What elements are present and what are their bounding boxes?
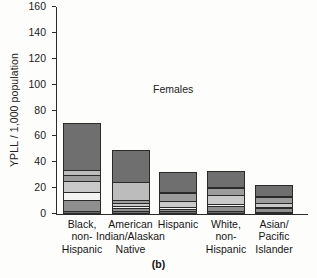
bar-1-segment-1 [64,211,100,213]
y-tick-label-60: 60 [34,130,46,141]
bar-4-segment-1 [208,211,244,213]
series-annotation-females: Females [153,83,193,95]
y-tick-label-80: 80 [34,104,46,115]
bar-1-segment-4 [64,181,100,192]
bar-1-segment-7 [64,124,100,170]
x-label-line: Pacific [228,230,317,242]
plot-area: 020406080100120140160 [56,7,306,214]
bar-4-segment-5 [208,188,244,195]
y-tick-label-40: 40 [34,156,46,167]
y-tick-140: 140 [52,32,56,33]
y-tick-80: 80 [52,110,56,111]
y-tick-label-20: 20 [34,182,46,193]
bar-2 [112,150,150,214]
y-axis-title: YPLL / 1,000 population [8,22,20,198]
y-tick-0: 0 [52,213,56,214]
bar-2-segment-1 [113,211,149,213]
bar-5-segment-1 [256,212,292,214]
y-tick-100: 100 [52,84,56,85]
y-tick-120: 120 [52,58,56,59]
y-tick-60: 60 [52,135,56,136]
bar-3-segment-7 [160,173,196,192]
bar-5 [255,185,293,214]
bar-4-segment-7 [208,172,244,187]
x-label-line: Islander [228,243,317,255]
chart-figure: YPLL / 1,000 population 0204060801001201… [0,0,317,278]
y-tick-label-140: 140 [28,27,46,38]
bar-1 [63,123,101,214]
bar-5-segment-7 [256,186,292,196]
x-label-line: Asian/ [228,218,317,230]
x-axis-line [56,214,308,215]
bar-4 [207,171,245,214]
bar-3 [159,172,197,214]
x-label-line: Indian/Alaskan [85,230,177,242]
bar-3-segment-5 [160,193,196,201]
bar-2-segment-6 [113,182,149,199]
bar-1-segment-2 [64,200,100,211]
y-tick-label-120: 120 [28,53,46,64]
panel-caption: (b) [0,258,317,270]
y-axis-line [56,7,57,215]
y-tick-label-0: 0 [40,208,46,219]
bar-3-segment-1 [160,211,196,213]
x-label-line: Native [85,243,177,255]
bar-2-segment-7 [113,151,149,183]
y-tick-20: 20 [52,187,56,188]
bar-1-segment-5 [64,175,100,182]
x-label-5: Asian/PacificIslander [228,218,317,255]
y-tick-40: 40 [52,161,56,162]
y-tick-label-160: 160 [28,1,46,12]
bar-4-segment-4 [208,195,244,204]
y-tick-label-100: 100 [28,78,46,89]
y-tick-160: 160 [52,6,56,7]
bar-1-segment-3 [64,192,100,200]
